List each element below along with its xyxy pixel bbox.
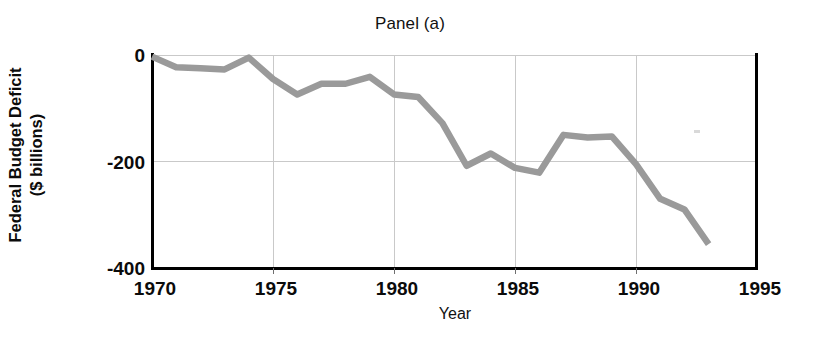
- ytick-label-0: 0: [134, 45, 145, 66]
- xtick-label-1995: 1995: [739, 278, 782, 299]
- xtick-label-1980: 1980: [376, 278, 418, 299]
- xtick-label-1975: 1975: [255, 278, 298, 299]
- xtick-label-1985: 1985: [497, 278, 540, 299]
- deficit-line-series: [152, 57, 709, 244]
- xtick-label-1970: 1970: [134, 278, 176, 299]
- x-axis-title: Year: [152, 305, 758, 323]
- ytick-label-400: -400: [107, 258, 145, 279]
- chart-figure: Panel (a) Federal Budget Deficit ($ bill…: [0, 0, 820, 339]
- ytick-label-200: -200: [107, 152, 145, 173]
- scan-speck: [694, 130, 700, 133]
- plot-area: 0 -200 -400 1970 1975 1980 1985 1990 199…: [0, 0, 820, 339]
- xtick-label-1990: 1990: [618, 278, 660, 299]
